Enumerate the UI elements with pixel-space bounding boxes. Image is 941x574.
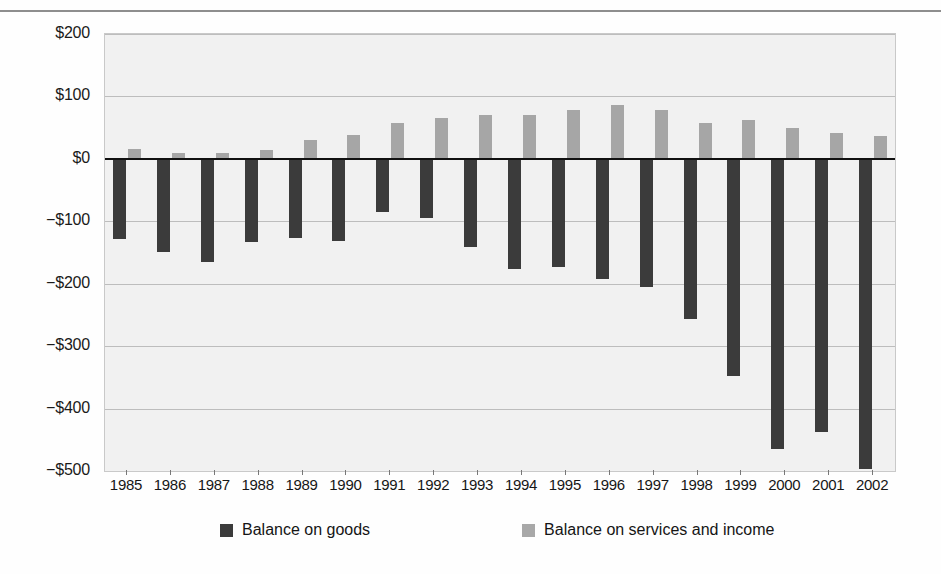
bar-group bbox=[632, 34, 676, 471]
y-axis-tick-label: $200 bbox=[55, 24, 90, 42]
bar-balance-on-services-and-income bbox=[874, 136, 887, 159]
bar-group bbox=[763, 34, 807, 471]
bar-balance-on-services-and-income bbox=[567, 110, 580, 159]
bar-balance-on-goods bbox=[640, 159, 653, 287]
bar-balance-on-goods bbox=[113, 159, 126, 239]
x-axis-tick: 2000 bbox=[762, 470, 806, 500]
bar-balance-on-goods bbox=[727, 159, 740, 376]
bar-group bbox=[676, 34, 720, 471]
y-axis-tick-label: −$200 bbox=[46, 274, 90, 292]
legend-item-balance-on-goods: Balance on goods bbox=[220, 521, 370, 539]
chart-page: $200$100$0−$100−$200−$300−$400−$500 1985… bbox=[0, 0, 941, 574]
legend-swatch-services-icon bbox=[522, 524, 535, 537]
x-axis-tick: 1993 bbox=[455, 470, 499, 500]
x-axis-tick: 1987 bbox=[192, 470, 236, 500]
legend-swatch-goods-icon bbox=[220, 524, 233, 537]
bar-balance-on-services-and-income bbox=[523, 115, 536, 159]
legend-label-services: Balance on services and income bbox=[544, 521, 774, 539]
x-axis-tick: 2002 bbox=[850, 470, 894, 500]
x-axis-tick-label: 1991 bbox=[367, 476, 411, 493]
bar-balance-on-goods bbox=[289, 159, 302, 238]
bar-group bbox=[588, 34, 632, 471]
plot-area bbox=[104, 33, 896, 472]
bar-group bbox=[105, 34, 149, 471]
bar-balance-on-services-and-income bbox=[786, 128, 799, 159]
bar-balance-on-goods bbox=[596, 159, 609, 279]
bar-group bbox=[281, 34, 325, 471]
x-axis-tick: 1999 bbox=[718, 470, 762, 500]
legend-label-goods: Balance on goods bbox=[242, 521, 370, 539]
y-axis-tick-label: −$100 bbox=[46, 211, 90, 229]
bar-balance-on-goods bbox=[508, 159, 521, 269]
bar-balance-on-goods bbox=[464, 159, 477, 247]
bar-balance-on-goods bbox=[859, 159, 872, 469]
x-axis-tick: 1991 bbox=[367, 470, 411, 500]
x-axis-tick: 1996 bbox=[587, 470, 631, 500]
bar-balance-on-services-and-income bbox=[304, 140, 317, 159]
bar-group bbox=[807, 34, 851, 471]
bar-balance-on-goods bbox=[376, 159, 389, 212]
x-axis-tick-label: 1995 bbox=[543, 476, 587, 493]
bar-balance-on-goods bbox=[245, 159, 258, 243]
x-axis-tick: 1985 bbox=[104, 470, 148, 500]
bar-group bbox=[500, 34, 544, 471]
x-axis-tick: 1997 bbox=[631, 470, 675, 500]
x-axis-tick-label: 2002 bbox=[850, 476, 894, 493]
legend-item-balance-on-services-and-income: Balance on services and income bbox=[522, 521, 774, 539]
bar-balance-on-goods bbox=[684, 159, 697, 319]
x-axis-tick-label: 2000 bbox=[762, 476, 806, 493]
bar-group bbox=[851, 34, 895, 471]
bar-group bbox=[237, 34, 281, 471]
x-axis-tick-label: 1988 bbox=[236, 476, 280, 493]
bar-balance-on-services-and-income bbox=[699, 123, 712, 159]
x-axis-tick-label: 1994 bbox=[499, 476, 543, 493]
x-axis-tick: 1986 bbox=[148, 470, 192, 500]
y-axis-tick-label: $100 bbox=[55, 86, 90, 104]
x-axis-tick-label: 1997 bbox=[631, 476, 675, 493]
x-axis-tick-label: 1999 bbox=[718, 476, 762, 493]
bar-balance-on-goods bbox=[815, 159, 828, 432]
x-axis-tick-label: 1996 bbox=[587, 476, 631, 493]
bar-balance-on-goods bbox=[771, 159, 784, 449]
bar-group bbox=[368, 34, 412, 471]
zero-axis-line bbox=[105, 158, 895, 160]
x-axis-labels: 1985198619871988198919901991199219931994… bbox=[104, 470, 894, 500]
bar-groups bbox=[105, 34, 895, 471]
bar-group bbox=[412, 34, 456, 471]
bar-balance-on-goods bbox=[157, 159, 170, 253]
bar-balance-on-services-and-income bbox=[479, 115, 492, 159]
x-axis-tick-label: 1986 bbox=[148, 476, 192, 493]
y-axis-tick-label: −$500 bbox=[46, 461, 90, 479]
bar-balance-on-services-and-income bbox=[611, 105, 624, 159]
x-axis-tick-label: 1985 bbox=[104, 476, 148, 493]
bar-group bbox=[544, 34, 588, 471]
bar-balance-on-goods bbox=[201, 159, 214, 263]
x-axis-tick: 2001 bbox=[806, 470, 850, 500]
bar-balance-on-services-and-income bbox=[742, 120, 755, 159]
x-axis-tick: 1994 bbox=[499, 470, 543, 500]
bar-balance-on-services-and-income bbox=[655, 110, 668, 159]
y-axis-labels: $200$100$0−$100−$200−$300−$400−$500 bbox=[0, 33, 98, 470]
bar-group bbox=[324, 34, 368, 471]
y-axis-tick-label: $0 bbox=[73, 149, 90, 167]
y-axis-tick-label: −$300 bbox=[46, 336, 90, 354]
bar-balance-on-services-and-income bbox=[391, 123, 404, 159]
chart-legend: Balance on goods Balance on services and… bbox=[104, 515, 894, 545]
bar-balance-on-goods bbox=[332, 159, 345, 241]
bar-group bbox=[719, 34, 763, 471]
bar-balance-on-goods bbox=[552, 159, 565, 268]
x-axis-tick-label: 2001 bbox=[806, 476, 850, 493]
top-divider-rule bbox=[0, 10, 941, 12]
x-axis-tick: 1988 bbox=[236, 470, 280, 500]
bar-balance-on-goods bbox=[420, 159, 433, 218]
x-axis-tick-label: 1992 bbox=[411, 476, 455, 493]
bar-balance-on-services-and-income bbox=[435, 118, 448, 159]
bar-balance-on-services-and-income bbox=[347, 135, 360, 159]
x-axis-tick-label: 1998 bbox=[675, 476, 719, 493]
x-axis-tick-label: 1987 bbox=[192, 476, 236, 493]
x-axis-tick-label: 1989 bbox=[280, 476, 324, 493]
x-axis-tick: 1990 bbox=[323, 470, 367, 500]
y-axis-tick-label: −$400 bbox=[46, 399, 90, 417]
x-axis-tick: 1995 bbox=[543, 470, 587, 500]
x-axis-tick-label: 1993 bbox=[455, 476, 499, 493]
